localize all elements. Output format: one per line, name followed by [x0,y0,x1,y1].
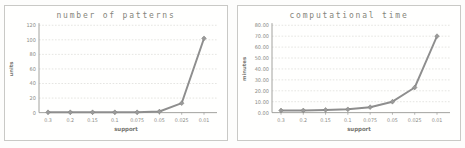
series-line [48,38,204,112]
x-axis-label: support [114,126,138,133]
x-tick-label: 0.01 [199,116,210,122]
data-point-marker [46,110,51,115]
chart-panel-number-of-patterns: number of patterns 0204060801001200.30.2… [4,5,228,141]
y-tick-label: 70.00 [255,33,269,39]
data-point-marker [90,110,95,115]
data-point-marker [346,107,351,112]
data-point-marker [179,101,184,106]
x-tick-label: 0.1 [111,116,119,122]
y-tick-label: 60.00 [255,44,269,50]
chart-panel-computational-time: computational time 0.0010.0020.0030.0040… [237,5,461,141]
chart-title: number of patterns [5,11,227,20]
data-point-marker [279,108,284,113]
x-tick-label: 0.2 [66,116,74,122]
y-tick-label: 0.00 [258,109,269,115]
y-tick-label: 120 [26,22,36,28]
y-tick-label: 100 [26,37,36,43]
x-tick-label: 0.075 [130,116,144,122]
y-tick-label: 20.00 [255,88,269,94]
x-tick-label: 0.2 [299,116,307,122]
x-axis-label: support [347,126,371,133]
y-tick-label: 20 [30,95,36,101]
x-tick-label: 0.075 [363,116,377,122]
x-tick-label: 0.3 [277,116,285,122]
data-point-marker [135,110,140,115]
data-point-marker [368,105,373,110]
x-tick-label: 0.1 [344,116,352,122]
y-tick-label: 0 [33,109,36,115]
data-point-marker [157,109,162,114]
x-tick-label: 0.15 [87,116,98,122]
y-tick-label: 30.00 [255,77,269,83]
chart-plot: 0.0010.0020.0030.0040.0050.0060.0070.008… [238,20,460,140]
figure: number of patterns 0204060801001200.30.2… [0,0,465,148]
x-tick-label: 0.15 [320,116,331,122]
data-point-marker [68,110,73,115]
x-tick-label: 0.025 [175,116,189,122]
chart-title: computational time [238,11,460,20]
y-tick-label: 60 [30,66,36,72]
data-point-marker [113,110,118,115]
x-tick-label: 0.025 [408,116,422,122]
y-tick-label: 80.00 [255,22,269,28]
data-point-marker [301,108,306,113]
y-tick-label: 40 [30,80,36,86]
y-tick-label: 40.00 [255,66,269,72]
x-tick-label: 0.3 [44,116,52,122]
y-tick-label: 10.00 [255,98,269,104]
x-tick-label: 0.01 [432,116,443,122]
y-tick-label: 50.00 [255,55,269,61]
x-tick-label: 0.05 [154,116,165,122]
x-tick-label: 0.05 [387,116,398,122]
y-tick-label: 80 [30,51,36,57]
data-point-marker [323,107,328,112]
chart-plot: 0204060801001200.30.20.150.10.0750.050.0… [5,20,227,140]
y-axis-label: minutes [241,57,247,81]
y-axis-label: units [8,61,14,76]
